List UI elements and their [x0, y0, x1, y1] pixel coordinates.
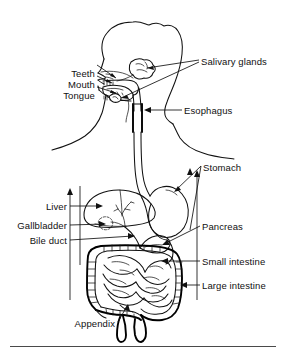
small-intestine-coil-4 [137, 269, 169, 284]
hepatic-duct-branch-4 [125, 209, 130, 210]
label-esophagus: Esophagus [184, 105, 232, 116]
bottom-divider-rule [10, 346, 276, 347]
hepatic-duct-branch-2 [122, 209, 125, 214]
anatomy-illustration [0, 0, 286, 361]
small-intestine-coil-15 [113, 290, 129, 295]
esophagus-group [133, 104, 150, 198]
label-appendix: Appendix [75, 318, 115, 329]
reference-line-arrow-right [194, 170, 200, 177]
hepatic-duct-branch-1 [118, 209, 122, 214]
leader-pancreas [164, 226, 200, 244]
digestive-system-figure: Teeth Mouth Tongue Salivary glands Esoph… [0, 0, 286, 361]
small-intestine-coil-12 [150, 266, 163, 269]
leader-pancreas-arrow [162, 240, 170, 245]
liver [84, 190, 155, 227]
label-mouth: Mouth [68, 79, 95, 90]
salivary-gland-sublingual [109, 94, 121, 103]
hepatic-duct-branch-7 [128, 202, 131, 205]
leader-tongue-arrow [110, 90, 116, 93]
hepatic-duct-branch-3 [125, 205, 128, 209]
label-teeth: Teeth [71, 68, 95, 79]
label-small-intestine: Small intestine [202, 256, 265, 267]
reference-line-arrow-left [67, 188, 73, 195]
leader-small-intestine-arrow [161, 258, 168, 264]
tongue-papillae-3 [122, 93, 123, 95]
tongue-surface-detail [107, 88, 123, 90]
label-large-intestine: Large intestine [202, 280, 266, 291]
hepatic-duct-branch-8 [131, 202, 134, 203]
pancreas-group [140, 236, 173, 264]
neck-back-contour [173, 124, 234, 159]
esophagus-tube-right [141, 132, 150, 196]
small-intestine-coil-11 [112, 262, 129, 265]
label-stomach: Stomach [203, 162, 241, 173]
small-intestine-group [103, 256, 172, 312]
leader-esophagus-arrow [144, 107, 151, 113]
small-intestine-coil-18 [152, 296, 165, 299]
liver-group [84, 190, 155, 227]
leader-gallbladder-arrow [99, 221, 106, 227]
small-intestine-coil-16 [146, 288, 160, 291]
label-liver: Liver [46, 201, 67, 212]
leader-teeth-arrow [110, 73, 116, 78]
larynx [126, 100, 129, 122]
label-bile-duct: Bile duct [30, 235, 67, 246]
label-salivary-glands: Salivary glands [201, 56, 267, 67]
pharynx-wall-back [139, 88, 141, 111]
appendix [117, 316, 126, 342]
label-gallbladder: Gallbladder [17, 220, 67, 231]
leader-stomach-secondary-arrow [187, 168, 193, 175]
hepatic-duct-branch-5 [116, 205, 118, 209]
small-intestine-coil-10 [144, 298, 172, 307]
leader-salivary-upper [147, 60, 199, 68]
neck-front-contour [52, 95, 106, 150]
label-tongue: Tongue [63, 90, 95, 101]
hepatic-duct-branch-6 [114, 209, 118, 211]
soft-palate [133, 83, 138, 95]
small-intestine-coil-13 [110, 279, 126, 284]
small-intestine-coil-3 [104, 265, 137, 274]
leader-bile-duct [70, 236, 133, 240]
leader-liver-arrow [96, 203, 103, 209]
nasal-turbinate-lower [105, 77, 113, 79]
label-pancreas: Pancreas [202, 221, 243, 232]
leader-bile-duct-arrow [128, 233, 135, 239]
